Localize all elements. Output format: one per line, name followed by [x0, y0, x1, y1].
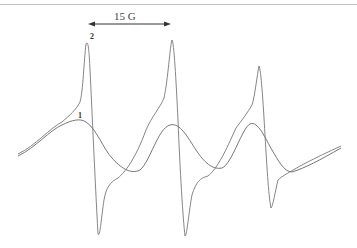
spectrum-plot: [0, 0, 357, 248]
scale-bar-arrow: [88, 22, 171, 27]
scale-label: 15 G: [114, 11, 136, 22]
curve-2: [18, 40, 341, 236]
curve-1-label: 1: [78, 112, 82, 120]
curve-2-label: 2: [90, 33, 94, 41]
